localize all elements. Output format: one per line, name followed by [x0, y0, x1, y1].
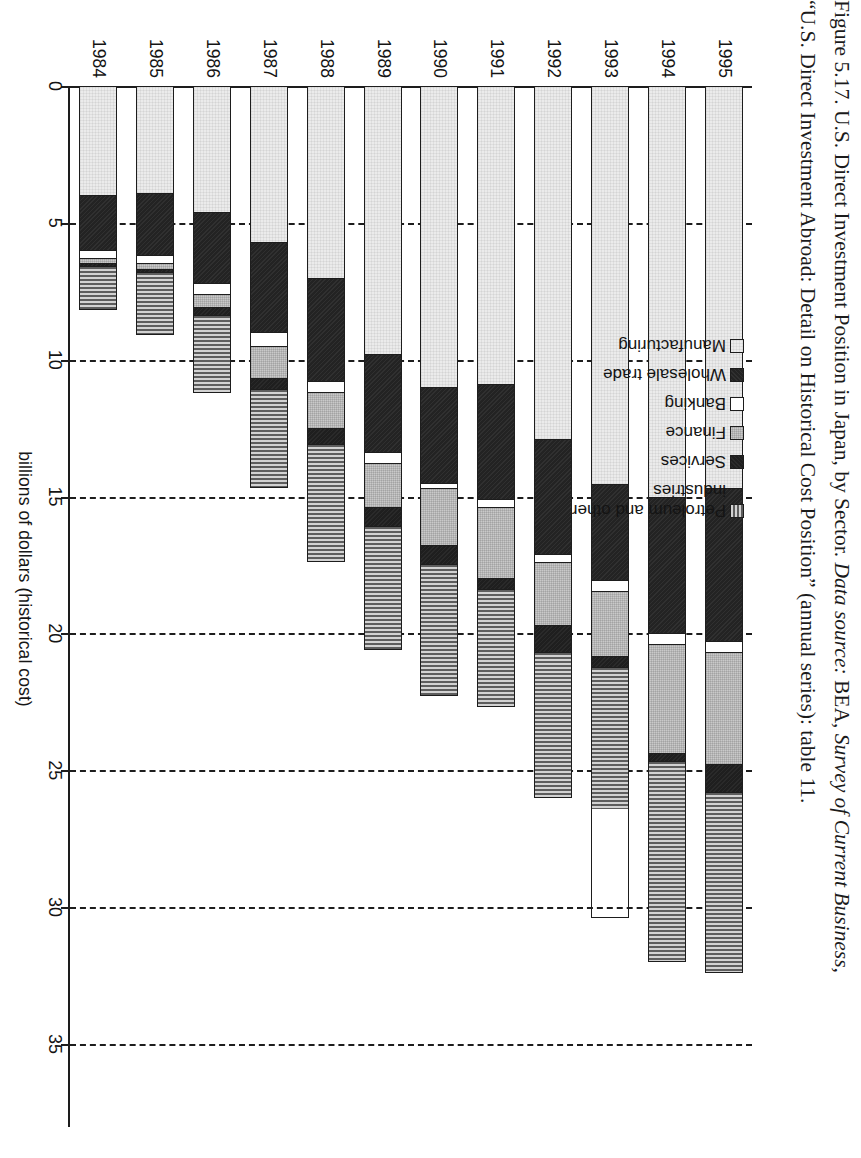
- bar-segment-petroleum: [80, 266, 116, 309]
- bar-segment-manufacturing: [421, 87, 457, 387]
- category-label-1984: 1984: [88, 39, 109, 78]
- bar-row: [705, 86, 743, 1126]
- bar-row: [79, 86, 117, 1126]
- bar-row: [364, 86, 402, 1126]
- bar-segment-banking: [251, 332, 287, 346]
- bar-segment-services: [421, 545, 457, 564]
- bar-segment-petroleum: [365, 526, 401, 649]
- figure-caption: Figure 5.17. U.S. Direct Investment Posi…: [791, 0, 859, 1158]
- bar-segment-petroleum: [592, 667, 628, 809]
- bar-segment-manufacturing: [251, 87, 287, 242]
- legend-item-finance: Finance: [494, 422, 744, 442]
- stacked-bar-1986: [193, 86, 231, 393]
- bar-segment-petroleum: [194, 315, 230, 391]
- chart-stage: 1984198519861987198819891990199119921993…: [8, 8, 762, 1150]
- legend-swatch-petroleum-icon: [730, 504, 744, 518]
- value-axis-tick-labels: 05101520253035: [44, 8, 68, 1150]
- bar-segment-services: [308, 428, 344, 444]
- bar-segment-services: [365, 507, 401, 526]
- stacked-bar-1987: [250, 86, 288, 488]
- bar-segment-wholesale: [365, 354, 401, 452]
- value-tick-label: 35: [44, 1034, 65, 1054]
- bar-segment-banking: [137, 255, 173, 263]
- bar-segment-wholesale: [421, 387, 457, 482]
- bar-row: [307, 86, 345, 1126]
- bar-segment-manufacturing: [194, 87, 230, 212]
- bar-segment-wholesale: [308, 278, 344, 382]
- value-axis-title: billions of dollars (historical cost): [14, 8, 35, 1150]
- figure-caption-container: Figure 5.17. U.S. Direct Investment Posi…: [764, 0, 859, 1158]
- bar-segment-banking: [535, 554, 571, 562]
- category-label-1993: 1993: [599, 39, 620, 78]
- stacked-bar-1994: [648, 86, 686, 962]
- caption-data-source-label: Data source:: [830, 563, 854, 675]
- caption-line-1: Figure 5.17. U.S. Direct Investment Posi…: [825, 0, 859, 1158]
- legend-item-banking: Banking: [494, 393, 744, 413]
- legend-label-petroleum: Petroleum and other industries: [572, 480, 726, 520]
- category-label-1988: 1988: [315, 39, 336, 78]
- bar-row: [420, 86, 458, 1126]
- bar-segment-petroleum: [308, 444, 344, 561]
- legend-label-manufacturing: Manufacturing: [618, 335, 726, 355]
- bar-segment-petroleum: [137, 272, 173, 334]
- bar-segment-services: [535, 625, 571, 652]
- bar-segment-finance: [706, 652, 742, 764]
- bar-segment-manufacturing: [80, 87, 116, 195]
- value-tick-label: 0: [44, 81, 65, 91]
- bar-segment-banking: [365, 452, 401, 463]
- bar-segment-banking: [80, 250, 116, 258]
- legend-label-banking: Banking: [665, 393, 726, 413]
- category-label-1991: 1991: [486, 39, 507, 78]
- legend-swatch-manufacturing-icon: [730, 339, 744, 353]
- legend: Petroleum and other industriesServicesFi…: [494, 326, 744, 520]
- legend-item-wholesale: Wholesale trade: [494, 364, 744, 384]
- bar-row: [477, 86, 515, 1126]
- caption-text-b: BEA,: [830, 675, 854, 734]
- caption-text-a: Figure 5.17. U.S. Direct Investment Posi…: [830, 0, 854, 563]
- stacked-bar-1989: [364, 86, 402, 650]
- value-tick-label: 15: [44, 487, 65, 507]
- value-tick-label: 5: [44, 218, 65, 228]
- bar-segment-finance: [308, 392, 344, 427]
- legend-item-services: Services: [494, 451, 744, 471]
- chart-plot: 1984198519861987198819891990199119921993…: [8, 8, 762, 1150]
- bar-segment-wholesale: [80, 195, 116, 249]
- category-label-1986: 1986: [202, 39, 223, 78]
- bar-segment-manufacturing: [365, 87, 401, 354]
- bar-row: [591, 86, 629, 1126]
- category-label-1989: 1989: [372, 39, 393, 78]
- value-tick-label: 10: [44, 350, 65, 370]
- bar-segment-finance: [535, 562, 571, 625]
- stacked-bar-1988: [307, 86, 345, 562]
- bar-segment-services: [194, 307, 230, 315]
- bar-segment-banking: [706, 641, 742, 652]
- figure-root: Figure 5.17. U.S. Direct Investment Posi…: [0, 0, 861, 1158]
- stacked-bar-1990: [420, 86, 458, 696]
- legend-item-manufacturing: Manufacturing: [494, 335, 744, 355]
- category-label-1994: 1994: [656, 39, 677, 78]
- bar-row: [250, 86, 288, 1126]
- bar-segment-wholesale: [137, 193, 173, 255]
- legend-swatch-services-icon: [730, 455, 744, 469]
- stacked-bar-1985: [136, 86, 174, 335]
- bar-segment-finance: [649, 644, 685, 753]
- category-label-1985: 1985: [145, 39, 166, 78]
- caption-publication-title: Survey of Current Business,: [830, 734, 854, 973]
- bar-row: [193, 86, 231, 1126]
- stacked-bar-1995: [705, 86, 743, 973]
- bar-segment-finance: [592, 591, 628, 657]
- legend-container: Petroleum and other industriesServicesFi…: [494, 280, 744, 520]
- bar-segment-petroleum: [649, 761, 685, 960]
- bar-segment-services: [706, 764, 742, 791]
- bar-segment-banking: [592, 580, 628, 591]
- bar-segment-manufacturing: [308, 87, 344, 278]
- category-label-1987: 1987: [258, 39, 279, 78]
- legend-label-services: Services: [661, 451, 726, 471]
- category-axis-labels: 1984198519861987198819891990199119921993…: [70, 8, 762, 86]
- bar-row: [136, 86, 174, 1126]
- value-tick-label: 25: [44, 760, 65, 780]
- bar-segment-services: [478, 578, 514, 589]
- bar-segment-wholesale: [251, 242, 287, 332]
- bar-segment-petroleum: [478, 589, 514, 706]
- value-tick-label: 20: [44, 623, 65, 643]
